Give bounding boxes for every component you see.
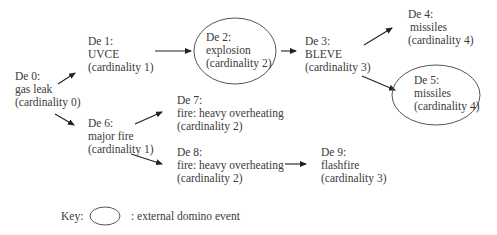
edge-de3-de5 [362,76,395,90]
node-cardinality: (cardinality 4) [408,34,474,47]
node-event: gas leak [15,83,53,96]
legend: Key: : external domino event [61,207,241,225]
edge-de0-de1 [58,73,75,84]
node-label: De 2: [206,31,231,43]
node-cardinality: (cardinality 3) [305,61,371,74]
node-de1: De 1: UVCE (cardinality 1) [88,35,154,74]
node-event: fire: heavy overheating [177,159,284,172]
node-label: De 9: [321,146,346,158]
node-de6: De 6: major fire (cardinality 1) [88,117,154,156]
legend-description: : external domino event [131,210,241,222]
node-cardinality: (cardinality 2) [177,172,243,185]
edge-de6-de8 [131,154,162,164]
node-label: De 8: [177,146,202,158]
node-de7: De 7: fire: heavy overheating (cardinali… [177,94,284,133]
node-cardinality: (cardinality 1) [88,61,154,74]
node-event: fire: heavy overheating [177,107,284,120]
node-cardinality: (cardinality 0) [15,96,81,109]
node-event: major fire [88,130,134,143]
node-cardinality: (cardinality 3) [321,172,387,185]
node-de5: De 5: missiles (cardinality 4) [414,74,480,113]
node-event: explosion [206,44,251,57]
edge-de3-de4 [364,28,392,45]
node-label: De 5: [414,74,439,86]
domino-effect-diagram: De 0: gas leak (cardinality 0) De 1: UVC… [0,0,497,235]
node-event: flashfire [321,159,359,171]
node-label: De 6: [88,117,113,129]
node-cardinality: (cardinality 2) [206,57,272,70]
node-de8: De 8: fire: heavy overheating (cardinali… [177,146,284,185]
node-label: De 4: [408,8,433,20]
edge-de0-de6 [55,114,74,125]
node-de3: De 3: BLEVE (cardinality 3) [305,35,371,74]
node-de4: De 4: missiles (cardinality 4) [408,8,474,47]
node-de2: De 2: explosion (cardinality 2) [206,31,272,70]
node-event: UVCE [88,48,119,60]
node-event: missiles [410,21,448,33]
node-label: De 7: [177,94,202,106]
node-label: De 0: [15,70,40,82]
node-label: De 1: [88,35,113,47]
node-event: missiles [414,87,452,99]
node-event: BLEVE [305,48,342,60]
legend-key-label: Key: [61,210,83,223]
node-label: De 3: [305,35,330,47]
node-cardinality: (cardinality 2) [177,120,243,133]
edge-de6-de7 [135,112,162,124]
legend-ellipse-icon [90,207,120,225]
node-de9: De 9: flashfire (cardinality 3) [321,146,387,185]
node-cardinality: (cardinality 4) [414,100,480,113]
node-cardinality: (cardinality 1) [88,143,154,156]
